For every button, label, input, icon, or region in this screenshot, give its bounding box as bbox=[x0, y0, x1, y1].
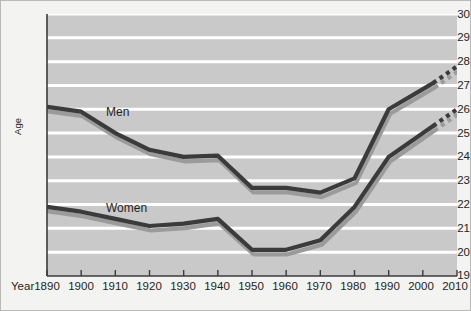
chart-figure: Age 30 29 28 27 26 25 24 23 22 21 20 19 … bbox=[0, 0, 471, 311]
x-tick-label: 2010 bbox=[435, 280, 471, 292]
x-axis-ticks bbox=[47, 270, 457, 276]
series-label-men: Men bbox=[106, 105, 129, 119]
series-label-women: Women bbox=[106, 201, 147, 215]
axis-svg bbox=[1, 1, 471, 311]
